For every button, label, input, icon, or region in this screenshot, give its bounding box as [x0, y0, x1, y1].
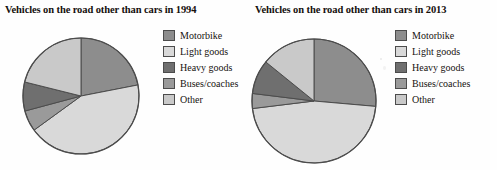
chart-panel-2013: Vehicles on the road other than cars in …	[249, 0, 497, 170]
legend-swatch-other	[163, 94, 175, 105]
legend-label: Heavy goods	[180, 62, 233, 73]
legend-label: Heavy goods	[412, 62, 465, 73]
pie-slice-motorbike[interactable]	[314, 39, 376, 106]
legend-item-light-goods[interactable]: Light goods	[395, 43, 470, 59]
legend-item-light-goods[interactable]: Light goods	[163, 43, 238, 59]
legend-swatch-buses-coaches	[395, 78, 407, 89]
legend-item-buses-coaches[interactable]: Buses/coaches	[163, 75, 238, 91]
figure-canvas: Vehicles on the road other than cars in …	[0, 0, 497, 170]
legend-label: Buses/coaches	[412, 78, 470, 89]
legend-swatch-heavy-goods	[163, 62, 175, 73]
legend-item-buses-coaches[interactable]: Buses/coaches	[395, 75, 470, 91]
legend-swatch-heavy-goods	[395, 62, 407, 73]
legend-1994: MotorbikeLight goodsHeavy goodsBuses/coa…	[163, 27, 238, 107]
pie-svg-1994	[22, 37, 140, 155]
pie-svg-2013	[251, 38, 377, 164]
legend-item-other[interactable]: Other	[163, 91, 238, 107]
legend-label: Other	[180, 94, 203, 105]
pie-chart-2013	[251, 38, 377, 164]
chart-panel-1994: Vehicles on the road other than cars in …	[0, 0, 248, 170]
legend-swatch-other	[395, 94, 407, 105]
pie-chart-1994	[22, 37, 140, 155]
legend-item-other[interactable]: Other	[395, 91, 470, 107]
page-title-2013: Vehicles on the road other than cars in …	[249, 3, 497, 16]
legend-swatch-light-goods	[163, 46, 175, 57]
legend-label: Light goods	[412, 46, 460, 57]
legend-label: Buses/coaches	[180, 78, 238, 89]
legend-label: Other	[412, 94, 435, 105]
legend-label: Motorbike	[180, 30, 222, 41]
legend-label: Motorbike	[412, 30, 454, 41]
page-title-1994: Vehicles on the road other than cars in …	[0, 3, 253, 16]
legend-2013: MotorbikeLight goodsHeavy goodsBuses/coa…	[395, 27, 470, 107]
legend-swatch-motorbike	[163, 30, 175, 41]
legend-swatch-motorbike	[395, 30, 407, 41]
legend-item-motorbike[interactable]: Motorbike	[163, 27, 238, 43]
pie-slice-light-goods[interactable]	[252, 101, 375, 163]
legend-label: Light goods	[180, 46, 228, 57]
legend-item-motorbike[interactable]: Motorbike	[395, 27, 470, 43]
legend-swatch-buses-coaches	[163, 78, 175, 89]
legend-item-heavy-goods[interactable]: Heavy goods	[395, 59, 470, 75]
legend-swatch-light-goods	[395, 46, 407, 57]
legend-item-heavy-goods[interactable]: Heavy goods	[163, 59, 238, 75]
